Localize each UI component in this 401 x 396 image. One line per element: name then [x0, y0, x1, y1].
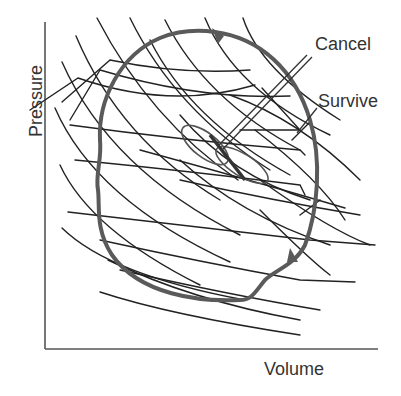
y-axis-label: Pressure: [27, 51, 45, 151]
survive-label: Survive: [318, 92, 378, 110]
pv-diagram: Cancel Survive Volume Pressure: [0, 0, 401, 396]
cancel-label: Cancel: [315, 35, 371, 53]
diagram-canvas: [0, 0, 401, 396]
cancel-leader-b: [218, 55, 307, 146]
x-axis-label: Volume: [264, 360, 324, 378]
